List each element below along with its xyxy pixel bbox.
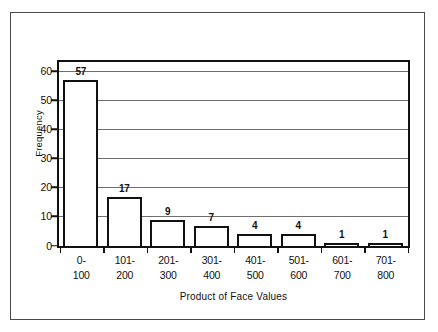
bar-value-label: 57: [75, 66, 86, 77]
x-axis-tick-label-lower: 701-: [376, 253, 396, 268]
bar-value-label: 9: [165, 206, 170, 217]
bar-value-label: 4: [296, 220, 301, 231]
bar[interactable]: [281, 234, 316, 246]
y-axis-tick-labels: 0102030405060: [22, 60, 52, 248]
x-axis-tick-label: 601-700: [332, 253, 352, 283]
x-axis-tick-label-upper: 600: [289, 268, 309, 283]
bar-value-label: 17: [119, 183, 130, 194]
x-axis-tick-label-upper: 800: [376, 268, 396, 283]
x-axis-tick-label-lower: 101-: [115, 253, 135, 268]
x-axis-tick-label-lower: 501-: [289, 253, 309, 268]
plot-area: 5717974411: [57, 60, 410, 248]
x-axis-tick-label: 101-200: [115, 253, 135, 283]
x-axis-title: Product of Face Values: [57, 291, 410, 302]
bar-value-label: 4: [252, 220, 257, 231]
bar-value-label: 1: [383, 229, 388, 240]
x-axis-tick-labels: 0-100101-200201-300301-400401-500501-600…: [57, 253, 410, 289]
x-axis-tick-label-lower: 201-: [158, 253, 178, 268]
bar-value-label: 1: [339, 229, 344, 240]
x-axis-tick-label: 701-800: [376, 253, 396, 283]
x-axis-tick-label-upper: 700: [332, 268, 352, 283]
bar[interactable]: [150, 220, 185, 246]
x-axis-tick-label: 301-400: [202, 253, 222, 283]
x-axis-tick-label-upper: 400: [202, 268, 222, 283]
bar[interactable]: [194, 226, 229, 246]
bars-group: [59, 62, 408, 246]
x-axis-tick-label: 401-500: [245, 253, 265, 283]
x-axis-tick-label-upper: 100: [73, 268, 90, 283]
x-axis-tick-label-lower: 301-: [202, 253, 222, 268]
bar[interactable]: [368, 243, 403, 246]
x-axis-tick-label-upper: 300: [158, 268, 178, 283]
figure: Frequency 0102030405060 5717974411 0-100…: [0, 0, 438, 332]
x-axis-tick-label-lower: 601-: [332, 253, 352, 268]
x-axis-tick-label: 201-300: [158, 253, 178, 283]
bar[interactable]: [63, 80, 98, 246]
x-axis-tick-label-lower: 0-: [73, 253, 90, 268]
x-axis-tick-label-lower: 401-: [245, 253, 265, 268]
x-axis-tick-label: 0-100: [73, 253, 90, 283]
x-axis-tick-label: 501-600: [289, 253, 309, 283]
x-axis-tick-label-upper: 500: [245, 268, 265, 283]
bar[interactable]: [237, 234, 272, 246]
bar[interactable]: [107, 197, 142, 246]
x-axis-tick-label-upper: 200: [115, 268, 135, 283]
bar[interactable]: [324, 243, 359, 246]
plot-inner: 5717974411: [59, 62, 408, 246]
bar-value-label: 7: [209, 212, 214, 223]
